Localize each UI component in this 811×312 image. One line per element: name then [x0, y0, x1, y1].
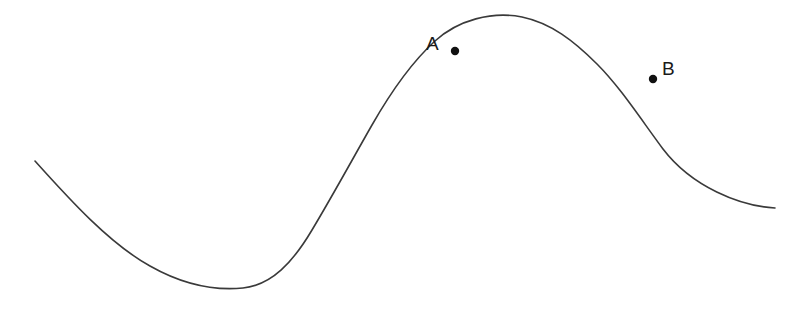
- figure-canvas: A B: [0, 0, 811, 312]
- point-a-marker: [451, 47, 459, 55]
- curve-diagram: [0, 0, 811, 312]
- point-b-marker: [649, 75, 657, 83]
- sine-curve-path: [35, 15, 775, 288]
- point-b-label: B: [662, 59, 675, 78]
- point-a-label: A: [426, 34, 439, 53]
